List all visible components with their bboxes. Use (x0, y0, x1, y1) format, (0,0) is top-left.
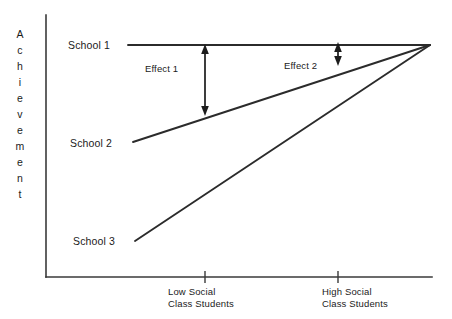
y-title-letter-6: e (17, 124, 23, 136)
series-labels-group: School 1 School 2 School 3 (68, 39, 115, 247)
y-title-letter-3: i (19, 76, 21, 88)
x-tick-label-high-social-line1: High Social (322, 286, 372, 297)
y-title-letter-8: e (17, 156, 23, 168)
x-tick-label-low-social-line2: Class Students (168, 298, 234, 309)
y-title-letter-4: e (17, 92, 23, 104)
series-line-school-2 (133, 45, 430, 142)
y-title-letter-0: A (16, 28, 23, 40)
x-tick-label-low-social-line1: Low Social (168, 286, 215, 297)
y-title-letter-10: t (18, 188, 21, 200)
series-label-school-2: School 2 (70, 137, 112, 149)
annotation-label-effect-1: Effect 1 (145, 63, 178, 74)
x-tick-label-high-social-line2: Class Students (322, 298, 388, 309)
effect-2-arrow-head-up (334, 42, 342, 52)
chart-svg: School 1 School 2 School 3 Effect 1 Effe… (0, 0, 452, 319)
effect-1-arrow-head-down (201, 106, 209, 116)
series-line-school-3 (135, 45, 430, 241)
effect-1-arrow (201, 44, 209, 116)
y-title-letter-1: c (17, 44, 22, 56)
effect-2-arrow-head-down (334, 56, 342, 66)
achievement-by-social-class-chart: School 1 School 2 School 3 Effect 1 Effe… (0, 0, 452, 319)
y-title-letter-5: v (17, 108, 23, 120)
series-label-school-1: School 1 (68, 39, 110, 51)
y-title-letter-2: h (17, 60, 23, 72)
series-group (128, 45, 430, 241)
x-tick-labels-group: Low Social Class Students High Social Cl… (168, 286, 388, 309)
effect-labels-group: Effect 1 Effect 2 (145, 60, 317, 74)
annotation-label-effect-2: Effect 2 (284, 60, 317, 71)
series-label-school-3: School 3 (73, 235, 115, 247)
y-title-letter-7: m (16, 140, 25, 152)
y-title-letter-9: n (17, 172, 23, 184)
y-axis-title: A c h i e v e m e n t (16, 28, 25, 200)
